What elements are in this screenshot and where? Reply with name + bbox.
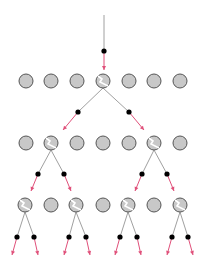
neutron-icon	[139, 171, 144, 176]
nucleus-icon	[96, 198, 110, 212]
nucleus	[19, 136, 33, 150]
neutron-icon	[134, 234, 139, 239]
trajectory-line	[78, 88, 103, 112]
neutron-path	[180, 212, 194, 255]
trajectory-line	[51, 150, 64, 174]
nucleus-icon	[44, 74, 58, 88]
nucleus-icon	[173, 74, 187, 88]
nucleus	[173, 136, 187, 150]
splitting-nucleus	[18, 198, 32, 212]
neutron-icon	[117, 234, 122, 239]
nucleus	[96, 136, 110, 150]
trajectory-line	[120, 212, 128, 237]
nucleus	[19, 74, 33, 88]
neutron-path	[25, 212, 39, 255]
neutron-path	[63, 88, 103, 130]
neutron-path	[76, 212, 91, 255]
nucleus-icon	[44, 198, 58, 212]
arrowhead-icon	[102, 66, 106, 70]
nucleus	[147, 198, 161, 212]
trajectory-line	[25, 212, 34, 237]
nucleus	[44, 198, 58, 212]
trajectory-line	[76, 212, 86, 237]
neutron-path	[11, 212, 25, 255]
splitting-nucleus	[121, 198, 135, 212]
trajectory-line	[128, 212, 137, 237]
splitting-nucleus	[44, 136, 58, 150]
chain-reaction-diagram	[0, 0, 202, 273]
nucleus	[96, 198, 110, 212]
trajectory-line	[17, 212, 25, 237]
neutron-path	[128, 212, 142, 255]
neutron-paths	[11, 15, 194, 255]
nucleus	[122, 74, 136, 88]
nucleus	[122, 136, 136, 150]
neutron-icon	[164, 171, 169, 176]
neutron-path	[63, 212, 76, 255]
neutron-path	[103, 88, 144, 130]
neutron-icon	[66, 234, 71, 239]
trajectory-line	[69, 212, 76, 237]
nucleus	[173, 74, 187, 88]
neutron-path	[135, 150, 154, 191]
neutron-path	[101, 15, 106, 70]
splitting-nucleus	[173, 198, 187, 212]
neutron-path	[166, 212, 180, 255]
neutron-icon	[101, 48, 106, 53]
neutron-path	[154, 150, 174, 191]
nucleus-icon	[19, 136, 33, 150]
neutron-icon	[61, 171, 66, 176]
trajectory-line	[154, 150, 167, 174]
arrowhead-icon	[35, 251, 39, 255]
nucleus-icon	[122, 74, 136, 88]
nucleus-icon	[122, 136, 136, 150]
neutron-icon	[185, 234, 190, 239]
trajectory-line	[180, 212, 188, 237]
neutron-icon	[75, 109, 80, 114]
splitting-nucleus	[147, 136, 161, 150]
nucleus-icon	[147, 198, 161, 212]
nucleus-icon	[96, 136, 110, 150]
neutron-path	[114, 212, 128, 255]
neutron-icon	[126, 109, 131, 114]
neutron-icon	[31, 234, 36, 239]
trajectory-line	[142, 150, 154, 174]
nucleus	[44, 74, 58, 88]
neutron-icon	[169, 234, 174, 239]
neutron-icon	[35, 171, 40, 176]
nucleus-icon	[70, 136, 84, 150]
trajectory-line	[172, 212, 180, 237]
splitting-nucleus	[96, 74, 110, 88]
arrowhead-icon	[138, 251, 142, 255]
trajectory-line	[38, 150, 51, 174]
splitting-nucleus	[69, 198, 83, 212]
nucleus-icon	[147, 74, 161, 88]
nuclei	[18, 74, 187, 212]
neutron-icon	[14, 234, 19, 239]
nucleus-icon	[70, 74, 84, 88]
neutron-path	[31, 150, 51, 191]
arrowhead-icon	[87, 251, 91, 255]
neutron-path	[51, 150, 71, 191]
nucleus-icon	[173, 136, 187, 150]
nucleus	[70, 74, 84, 88]
nucleus	[70, 136, 84, 150]
neutron-icon	[83, 234, 88, 239]
nucleus-icon	[19, 74, 33, 88]
trajectory-line	[103, 88, 129, 112]
nucleus	[147, 74, 161, 88]
